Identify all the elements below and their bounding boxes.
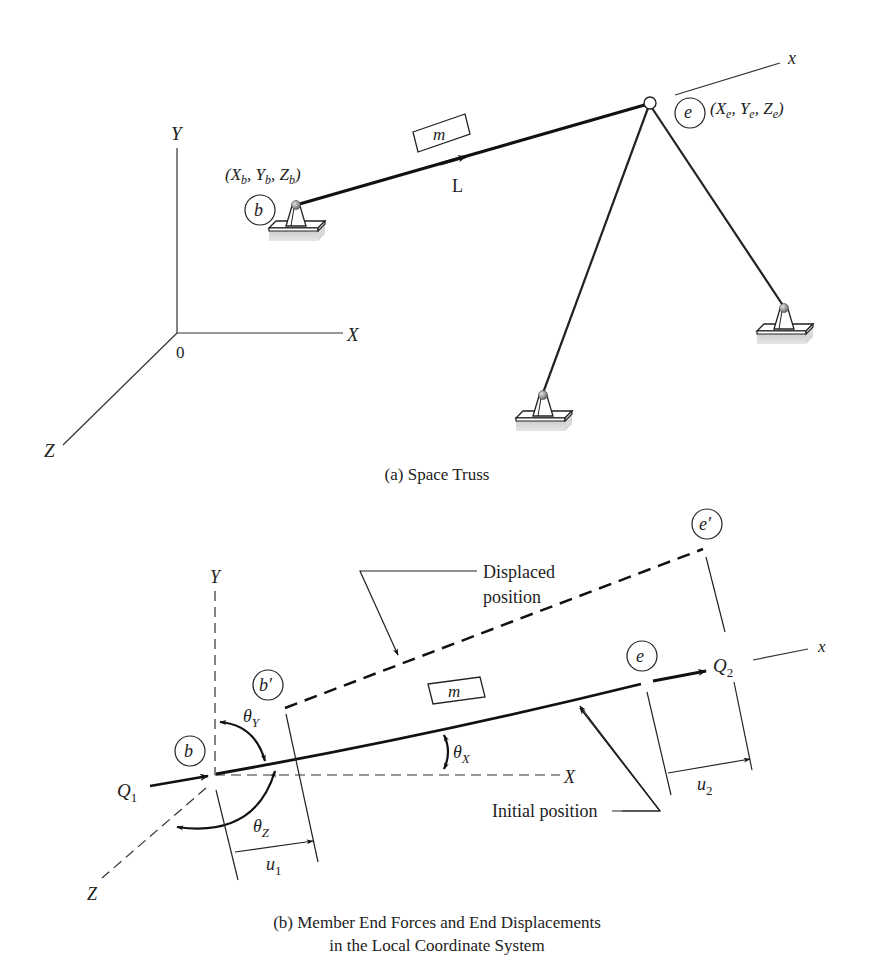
local-x-axis-line [675, 63, 780, 95]
caption-a: (a) Space Truss [385, 465, 490, 484]
caption-b-line2: in the Local Coordinate System [329, 936, 544, 955]
b-member-label: m [448, 682, 460, 701]
node-b-coordinates: (Xb, Yb, Zb) [225, 165, 301, 187]
initial-label: Initial position [492, 801, 598, 821]
member-initial-position [216, 684, 641, 774]
member-direction-arrow [440, 157, 466, 165]
y-axis-label: Y [171, 123, 184, 144]
q2-force-arrow [653, 671, 706, 681]
origin-label: 0 [176, 343, 185, 362]
z-axis-label: Z [44, 440, 55, 461]
z-axis-line [63, 333, 177, 445]
theta-z-label: θZ [253, 816, 270, 840]
b-node-e-label: e [636, 646, 644, 666]
member-right-leg [652, 108, 784, 307]
u2-label: u2 [697, 774, 713, 798]
displaced-label-line2: position [483, 587, 541, 607]
member-length-label: L [452, 176, 463, 196]
q1-force-arrow [150, 776, 208, 786]
displaced-label-line1: Displaced [483, 562, 555, 582]
theta-x-label: θX [453, 742, 471, 766]
local-x-axis-label: x [787, 48, 796, 68]
theta-y-label: θY [243, 706, 261, 730]
node-e-label: e [684, 102, 692, 122]
b-y-axis-label: Y [210, 567, 222, 587]
support-right-icon [757, 304, 813, 345]
global-axes [63, 148, 343, 445]
member-label: m [433, 125, 445, 144]
u1-label: u1 [266, 854, 282, 878]
b-z-axis-line [102, 788, 206, 878]
structural-diagram: Y X Z 0 x m L b (Xb, Yb, Zb) e (Xe, Ye, … [0, 0, 874, 962]
b-z-axis-label: Z [87, 884, 98, 904]
node-b-label: b [254, 200, 263, 220]
b-x-axis-label: X [563, 767, 576, 787]
displaced-leader [360, 571, 477, 655]
theta-x-arc-icon [444, 735, 448, 769]
caption-b-line1: (b) Member End Forces and End Displaceme… [273, 913, 601, 932]
q1-label: Q1 [117, 780, 137, 805]
figure-b-member-end-forces: Y X Z Q1 Q2 x b b′ e e′ m θX [87, 509, 826, 955]
node-e-prime-label: e′ [699, 514, 712, 534]
b-local-x-axis-line [753, 649, 808, 660]
node-b-prime-label: b′ [259, 675, 273, 695]
q2-label: Q2 [713, 655, 733, 680]
figure-a-space-truss: Y X Z 0 x m L b (Xb, Yb, Zb) e (Xe, Ye, … [44, 48, 813, 484]
member-label-box: m [413, 114, 470, 152]
u2-dimension [647, 557, 752, 795]
b-member-label-box: m [428, 677, 485, 704]
x-axis-label: X [346, 324, 360, 345]
member-m [296, 104, 648, 205]
support-left-icon [516, 391, 572, 432]
initial-leader-arrow [580, 706, 660, 811]
b-node-b-label: b [184, 741, 193, 761]
node-e-coordinates: (Xe, Ye, Ze) [710, 99, 784, 121]
b-local-x-axis-label: x [817, 637, 826, 656]
member-left-leg [543, 108, 648, 393]
support-b-icon [269, 201, 325, 242]
joint-e-icon [644, 97, 656, 109]
